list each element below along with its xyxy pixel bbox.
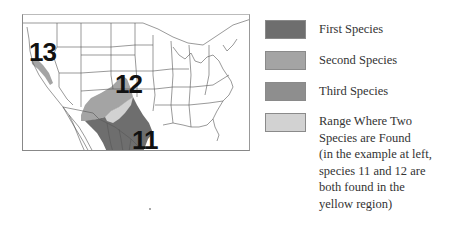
- range-map: 13 12 11: [22, 14, 250, 151]
- legend-label-first-species: First Species: [319, 21, 383, 38]
- stray-dot: [149, 208, 151, 210]
- map-label-11: 11: [132, 127, 158, 151]
- legend-label-overlap: Range Where Two Species are Found (in th…: [319, 113, 432, 212]
- legend-swatch-overlap: [265, 113, 306, 132]
- legend-swatch-first-species: [265, 20, 306, 39]
- map-label-13: 13: [29, 39, 56, 65]
- legend-label-third-species: Third Species: [319, 83, 388, 100]
- legend-swatch-third-species: [265, 82, 306, 101]
- map-label-12: 12: [115, 71, 142, 97]
- legend-label-second-species: Second Species: [319, 52, 397, 69]
- legend-swatch-second-species: [265, 51, 306, 70]
